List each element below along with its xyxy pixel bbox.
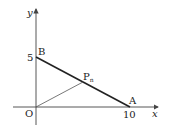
point-pn-label: Pn (83, 71, 94, 83)
y-axis-label: y (26, 7, 33, 18)
point-b-label: B (38, 46, 45, 57)
coordinate-diagram: y x O 5 10 B A Pn (0, 0, 169, 135)
origin-label: O (25, 108, 33, 119)
x-tick-label: 10 (123, 109, 136, 120)
x-axis-label: x (152, 108, 158, 119)
point-a-label: A (128, 95, 137, 106)
y-tick-label: 5 (27, 52, 33, 63)
point-pn-subscript: n (90, 76, 94, 83)
segment-o-pn (36, 82, 83, 107)
